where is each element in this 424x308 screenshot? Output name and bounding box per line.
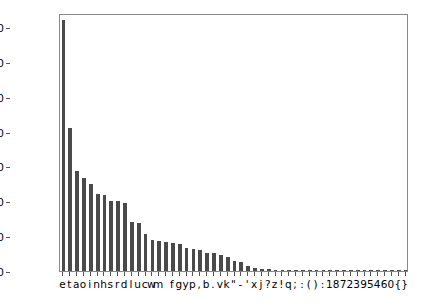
bar — [151, 240, 155, 271]
bar — [68, 128, 72, 271]
y-tick-label: 60000 — [0, 57, 4, 69]
bar — [397, 270, 401, 271]
y-tick-mark — [6, 63, 10, 64]
y-tick-label: 70000 — [0, 22, 4, 34]
x-tick-label: p — [189, 278, 196, 290]
bar — [356, 270, 360, 271]
x-tick-label: { — [394, 278, 401, 290]
x-tick-mark — [227, 272, 228, 276]
bar — [144, 234, 148, 271]
x-tick-mark — [110, 272, 111, 276]
bar — [281, 270, 285, 271]
bar — [226, 257, 230, 271]
x-tick-label: z — [272, 278, 278, 290]
x-tick-mark — [377, 272, 378, 276]
bar — [301, 270, 305, 271]
x-tick-label: 5 — [367, 278, 374, 290]
x-tick-label: 2 — [346, 278, 353, 290]
bar — [212, 253, 216, 271]
x-tick-mark — [90, 272, 91, 276]
bar — [383, 270, 387, 271]
x-tick-label: ( — [307, 278, 311, 290]
bar — [103, 195, 107, 271]
bar — [171, 243, 175, 271]
bar — [96, 194, 100, 271]
bar — [89, 184, 93, 272]
x-tick-label: n — [93, 278, 100, 290]
x-tick-mark — [281, 272, 282, 276]
y-axis: 010000200003000040000500006000070000 — [0, 0, 59, 308]
x-tick-mark — [97, 272, 98, 276]
bar — [363, 270, 367, 271]
bar — [116, 201, 120, 271]
x-tick-label: o — [80, 278, 86, 290]
x-tick-mark — [370, 272, 371, 276]
x-tick-mark — [76, 272, 77, 276]
x-tick-label: 6 — [381, 278, 388, 290]
bar — [246, 266, 250, 271]
bar — [342, 270, 346, 271]
x-tick-mark — [151, 272, 152, 276]
x-tick-mark — [336, 272, 337, 276]
x-tick-label: t — [67, 278, 71, 290]
y-tick-mark — [6, 272, 10, 273]
bar — [376, 270, 380, 271]
y-tick-mark — [6, 237, 10, 238]
x-tick-mark — [295, 272, 296, 276]
x-tick-mark — [117, 272, 118, 276]
bar — [137, 223, 141, 271]
x-tick-mark — [69, 272, 70, 276]
x-tick-label: m — [153, 278, 163, 290]
x-tick-label: v — [217, 278, 223, 290]
x-tick-mark — [124, 272, 125, 276]
x-tick-mark — [364, 272, 365, 276]
bar — [274, 270, 278, 271]
x-tick-label: j — [259, 278, 262, 290]
x-tick-mark — [268, 272, 269, 276]
x-tick-label — [163, 278, 166, 290]
bar — [192, 249, 196, 271]
bar — [185, 248, 189, 271]
x-tick-mark — [172, 272, 173, 276]
x-tick-mark — [240, 272, 241, 276]
x-tick-label: ' — [246, 278, 249, 290]
bar — [253, 268, 257, 271]
x-tick-mark — [405, 272, 406, 276]
bar — [164, 242, 168, 271]
x-tick-label: : — [300, 278, 304, 290]
x-tick-mark — [199, 272, 200, 276]
x-tick-mark — [275, 272, 276, 276]
x-tick-label: s — [108, 278, 113, 290]
x-tick-label: e — [59, 278, 65, 290]
x-tick-mark — [234, 272, 235, 276]
y-tick-mark — [6, 133, 10, 134]
x-tick-mark — [329, 272, 330, 276]
bar — [178, 244, 182, 271]
x-tick-label: d — [121, 278, 128, 290]
x-tick-label: f — [170, 278, 174, 290]
bar — [239, 262, 243, 271]
x-tick-label: ? — [265, 278, 271, 290]
x-tick-mark — [391, 272, 392, 276]
bar — [219, 255, 223, 271]
x-tick-label: a — [73, 278, 79, 290]
x-tick-mark — [254, 272, 255, 276]
x-tick-label: 7 — [340, 278, 347, 290]
x-tick-mark — [62, 272, 63, 276]
x-tick-mark — [145, 272, 146, 276]
x-tick-mark — [322, 272, 323, 276]
x-tick-label: i — [88, 278, 91, 290]
x-tick-label: } — [401, 278, 408, 290]
x-tick-mark — [357, 272, 358, 276]
x-tick-label: - — [238, 278, 242, 290]
bar — [205, 253, 209, 271]
plot-area — [59, 14, 408, 272]
x-tick-label: 1 — [326, 278, 333, 290]
y-tick-mark — [6, 167, 10, 168]
x-tick-mark — [186, 272, 187, 276]
x-tick-mark — [288, 272, 289, 276]
x-tick-mark — [179, 272, 180, 276]
x-tick-label: 0 — [388, 278, 395, 290]
y-tick-label: 0 — [0, 266, 4, 278]
bar-series — [60, 15, 407, 271]
